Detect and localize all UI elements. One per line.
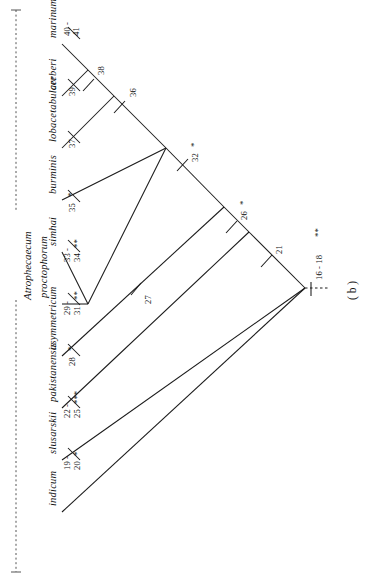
node-label-28-asterisks: * bbox=[66, 347, 76, 351]
node-label-35-asterisks: * bbox=[66, 193, 76, 197]
branch-n21-to-pakistanensis bbox=[62, 232, 249, 408]
panel-label: ( b ) bbox=[346, 281, 358, 300]
node-label-29-31-line1: 29 - bbox=[62, 301, 72, 315]
node-label-36: 36 bbox=[128, 88, 138, 97]
branch-n32-to-n27 bbox=[88, 148, 166, 304]
node-label-21: 21 bbox=[274, 245, 284, 254]
tick-n26 bbox=[226, 221, 237, 233]
node-label-39: 39 bbox=[67, 87, 77, 96]
genus-label-atrophecaecum: Atrophecaecum bbox=[21, 231, 33, 300]
node-label-32: 32 bbox=[190, 153, 200, 162]
node-label-19-20-asterisks: * bbox=[72, 452, 82, 456]
branch-root-to-n21 bbox=[249, 232, 305, 288]
taxon-label-indicum: indicum bbox=[47, 471, 58, 506]
taxon-label-lobacetabulare: lobacetabulare bbox=[47, 76, 58, 142]
genus-bracket bbox=[11, 10, 21, 572]
branch-n26-to-asymmetricum bbox=[62, 207, 224, 356]
node-label-19-20-line1: 19 - bbox=[62, 456, 72, 470]
tick-n36 bbox=[114, 101, 125, 113]
node-label-33-34-asterisks: ** bbox=[72, 239, 82, 248]
branch-root-to-indicum bbox=[62, 288, 305, 512]
node-label-19-20-line2: 20 bbox=[72, 461, 82, 470]
node-label-26: 26 bbox=[239, 211, 249, 220]
node-label-33-34-line1: 33 - bbox=[62, 248, 72, 262]
node-label-35: 35 bbox=[67, 203, 77, 212]
node-label-16-18: 16 - 18 bbox=[314, 255, 324, 280]
node-label-22-25-line2: 25 bbox=[72, 409, 82, 418]
taxon-label-burminis: burminis bbox=[47, 155, 58, 194]
node-label-29-31-line2: 31 bbox=[72, 306, 82, 315]
taxon-label-slusarskii: slusarskii bbox=[47, 412, 58, 454]
node-label-37: 37 bbox=[67, 139, 77, 148]
taxon-label-asymmetricum: asymmetricum bbox=[47, 286, 58, 350]
node-label-40-41-line2: 41 bbox=[71, 27, 81, 36]
node-label-33-34-line2: 34 bbox=[72, 253, 82, 262]
node-label-22-25-asterisks: *** bbox=[72, 391, 82, 404]
node-label-28: 28 bbox=[67, 357, 77, 366]
node-label-22-25-line1: 22 - bbox=[62, 404, 72, 418]
node-label-26-asterisks: * bbox=[238, 201, 248, 205]
node-label-16-18-asterisks: ** bbox=[313, 228, 323, 237]
node-label-29-31-asterisks: ** bbox=[72, 291, 82, 300]
taxon-label-marinum: marinum bbox=[47, 0, 58, 38]
tick-n38 bbox=[83, 79, 94, 91]
tick-n21 bbox=[261, 255, 272, 267]
branch-n32-to-burminis bbox=[62, 148, 166, 200]
branch-n38-to-marinum bbox=[62, 44, 88, 70]
figure-canvas: Atrophecaecum ( b ) marinum cerberi loba… bbox=[0, 0, 368, 582]
tick-n27 bbox=[131, 283, 141, 295]
node-label-32-asterisks: * bbox=[189, 143, 199, 147]
taxon-label-pakistanensis: pakistanensis bbox=[47, 343, 58, 402]
node-label-27: 27 bbox=[143, 295, 153, 304]
node-label-38: 38 bbox=[96, 66, 106, 75]
